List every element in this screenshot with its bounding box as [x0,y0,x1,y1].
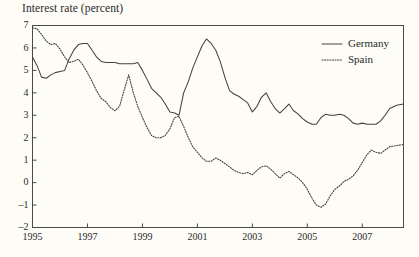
y-tick-label: 7 [24,19,29,30]
x-tick-label: 1997 [77,231,97,242]
y-tick-label: 4 [24,87,29,98]
chart-legend: GermanySpain [322,37,389,65]
x-tick-label: 2001 [187,231,207,242]
x-tick-label: 1999 [132,231,152,242]
y-tick-label: 3 [24,109,29,120]
legend-label-spain: Spain [348,53,374,65]
y-tick-label: 1 [24,154,29,165]
y-tick-label: 0 [24,176,29,187]
y-tick-label: –1 [18,199,29,210]
chart-plot-area: 76543210–1–2 199519971999200120032005200… [0,0,419,257]
y-tick-label: 2 [24,132,29,143]
x-tick-label: 2003 [242,231,262,242]
x-tick-label: 2005 [297,231,317,242]
y-tick-label: 6 [24,42,29,53]
x-axis-ticks: 1995199719992001200320052007 [23,224,373,242]
y-tick-label: 5 [24,64,29,75]
interest-rate-chart-figure: Interest rate (percent) 76543210–1–2 199… [0,0,419,257]
x-tick-label: 2007 [352,231,372,242]
legend-label-germany: Germany [348,37,389,49]
y-axis-ticks: 76543210–1–2 [18,19,37,232]
x-tick-label: 1995 [23,231,43,242]
